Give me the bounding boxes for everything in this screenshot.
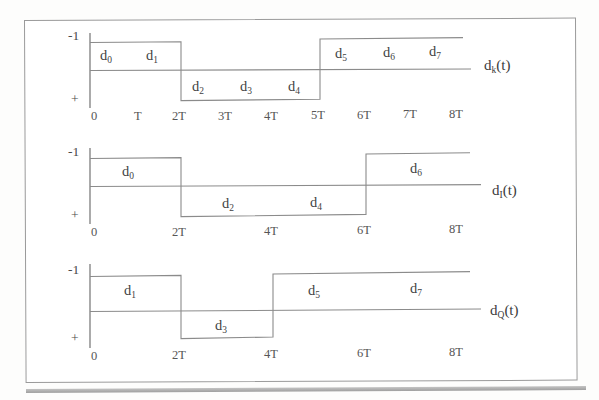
page-border xyxy=(24,18,578,383)
